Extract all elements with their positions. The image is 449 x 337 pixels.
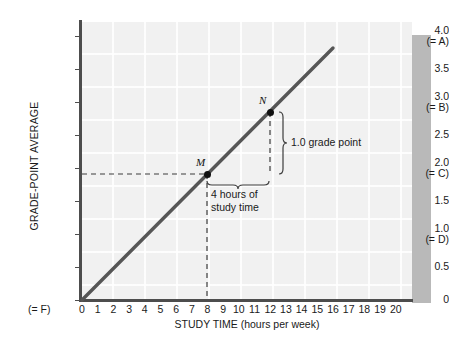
- y-tick-grade: (= D): [375, 234, 449, 245]
- data-point-n[interactable]: [267, 109, 274, 116]
- plot-area: [82, 22, 412, 300]
- y-tick-mark: [75, 234, 80, 235]
- y-tick-grade: (= C): [375, 168, 449, 179]
- y-tick-label-4-0: 4.0(= A): [375, 25, 449, 47]
- y-tick-mark: [75, 168, 80, 169]
- x-axis-origin-grade-label: (= F): [28, 303, 50, 315]
- x-axis-title: STUDY TIME (hours per week): [82, 318, 412, 330]
- y-axis-title: GRADE-POINT AVERAGE: [28, 66, 40, 266]
- y-tick-value: 2.5: [375, 129, 449, 140]
- y-tick-mark: [75, 102, 80, 103]
- y-tick-grade: (= A): [375, 36, 449, 47]
- y-tick-label-3-0: 3.0(= B): [375, 91, 449, 113]
- y-tick-label-2-0: 2.0(= C): [375, 157, 449, 179]
- y-axis-line: [79, 20, 82, 302]
- x-axis-line: [79, 299, 413, 302]
- y-tick-grade: (= B): [375, 102, 449, 113]
- y-tick-label-1-5: 1.5: [375, 195, 449, 206]
- y-tick-value: 3.5: [375, 63, 449, 74]
- y-tick-label-3-5: 3.5: [375, 63, 449, 74]
- y-tick-mark: [75, 300, 80, 301]
- y-tick-mark: [75, 267, 80, 268]
- y-tick-mark: [75, 36, 80, 37]
- plot-gridlines: [82, 22, 412, 300]
- y-tick-label-2-5: 2.5: [375, 129, 449, 140]
- y-tick-mark: [75, 135, 80, 136]
- y-tick-mark: [75, 69, 80, 70]
- data-point-n-label: N: [259, 94, 266, 106]
- y-tick-value: 0.5: [375, 261, 449, 272]
- data-point-m-label: M: [196, 156, 205, 168]
- annotation-grade-point: 1.0 grade point: [291, 136, 361, 149]
- chart-figure: 4.0(= A)3.53.0(= B)2.52.0(= C)1.51.0(= D…: [0, 0, 449, 337]
- y-tick-mark: [75, 201, 80, 202]
- y-tick-label-0-5: 0.5: [375, 261, 449, 272]
- x-tick-label-20: 20: [387, 303, 405, 315]
- y-tick-value: 1.5: [375, 195, 449, 206]
- y-tick-label-1-0: 1.0(= D): [375, 223, 449, 245]
- annotation-study-hours: 4 hours of study time: [211, 188, 259, 213]
- data-point-m[interactable]: [204, 171, 211, 178]
